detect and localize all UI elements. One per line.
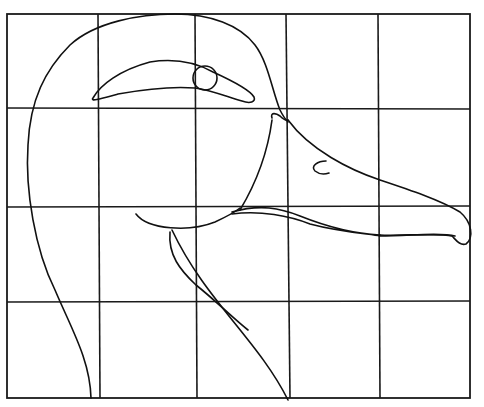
lore-hook (272, 114, 288, 121)
neck-front (170, 232, 248, 330)
nostril (313, 161, 329, 174)
grid-hline-1 (7, 108, 470, 109)
chin-line (136, 208, 240, 228)
grid-hline-2 (7, 206, 470, 207)
drawing-svg (0, 0, 484, 407)
cheek-curve (240, 120, 272, 210)
grid-hline-3 (7, 301, 470, 302)
duck-grid-drawing (0, 0, 484, 407)
lower-bill (232, 208, 455, 236)
eye (193, 66, 217, 90)
eye-stripe (92, 60, 254, 102)
